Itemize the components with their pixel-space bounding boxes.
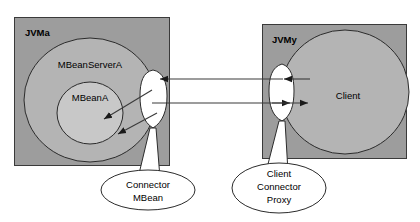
client-connector-proxy-line1: Client: [267, 168, 292, 179]
connector-mbean-bubble: [101, 170, 195, 210]
client-label: Client: [336, 90, 361, 101]
mbean-a-label: MBeanA: [72, 92, 109, 103]
client-connector-proxy-line3: Proxy: [267, 194, 292, 205]
connector-mbean-line2: MBean: [133, 192, 163, 203]
jvmy-label: JVMy: [272, 34, 298, 45]
mbeanserver-a-label: MBeanServerA: [58, 59, 123, 70]
client-connector-proxy-line2: Connector: [257, 181, 301, 192]
jvma-label: JVMa: [25, 27, 51, 38]
diagram-canvas: JVMa MBeanServerA MBeanA JVMy Client: [0, 0, 420, 222]
connector-mbean-line1: Connector: [126, 179, 170, 190]
architecture-diagram: JVMa MBeanServerA MBeanA JVMy Client: [0, 0, 420, 222]
